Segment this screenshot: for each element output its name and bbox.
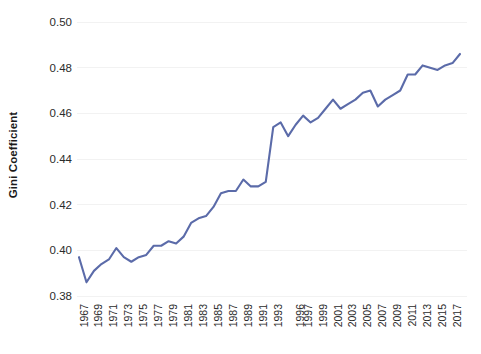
x-axis-tick-label: 2013	[422, 304, 433, 344]
x-axis-tick-label: 1991	[258, 304, 269, 344]
x-axis-tick-label-text: 2011	[407, 304, 418, 344]
y-axis-tick-label: 0.50	[24, 16, 72, 28]
x-axis-tick-label-text: 1973	[123, 304, 134, 344]
x-axis-tick-label-text: 1971	[108, 304, 119, 344]
x-axis-tick-label-text: 1991	[258, 304, 269, 344]
x-axis-tick-label: 1999	[318, 304, 329, 344]
y-axis-tick-labels: 0.380.400.420.440.460.480.50	[24, 0, 72, 354]
x-axis-tick-label-text: 1967	[79, 304, 90, 344]
x-axis-tick-label: 2011	[407, 304, 418, 344]
x-axis-tick-label: 1973	[123, 304, 134, 344]
y-axis-title-label: Gini Coefficient	[7, 112, 19, 199]
x-axis-tick-label: 2015	[437, 304, 448, 344]
x-axis-tick-label-text: 2001	[333, 304, 344, 344]
x-axis-tick-label-text: 2005	[362, 304, 373, 344]
x-axis-tick-label-text: 1997	[303, 304, 314, 344]
x-axis-tick-label: 1967	[79, 304, 90, 344]
series-line-gini-coefficient	[79, 54, 460, 282]
x-axis-tick-label: 1983	[198, 304, 209, 344]
x-axis-tick-label: 1993	[273, 304, 284, 344]
x-axis-tick-label-text: 1999	[318, 304, 329, 344]
y-axis-title: Gini Coefficient	[0, 0, 26, 310]
y-axis-tick-label: 0.48	[24, 62, 72, 74]
x-axis-tick-label: 2001	[333, 304, 344, 344]
x-axis-tick-label-text: 2009	[392, 304, 403, 344]
x-axis-tick-label: 1971	[108, 304, 119, 344]
x-axis-tick-label-text: 2015	[437, 304, 448, 344]
x-axis-tick-label: 2017	[452, 304, 463, 344]
y-axis-tick-label: 0.42	[24, 199, 72, 211]
x-axis-tick-label: 1977	[153, 304, 164, 344]
x-axis-tick-label-text: 1989	[243, 304, 254, 344]
x-axis-tick-label-text: 1979	[168, 304, 179, 344]
x-axis-tick-label: 1969	[93, 304, 104, 344]
x-axis-tick-label: 1975	[138, 304, 149, 344]
x-axis-tick-label-text: 1981	[183, 304, 194, 344]
x-axis-tick-label: 1985	[213, 304, 224, 344]
series-line-layer	[77, 0, 467, 300]
x-axis-tick-label-text: 2013	[422, 304, 433, 344]
x-axis-tick-label: 1981	[183, 304, 194, 344]
x-axis-tick-label: 1997	[303, 304, 314, 344]
y-axis-tick-label: 0.44	[24, 153, 72, 165]
gini-coefficient-line-chart: Gini Coefficient 0.380.400.420.440.460.4…	[0, 0, 481, 354]
x-axis-tick-label: 2009	[392, 304, 403, 344]
x-axis-tick-label: 1989	[243, 304, 254, 344]
y-axis-tick-label: 0.40	[24, 244, 72, 256]
x-axis-tick-label: 1979	[168, 304, 179, 344]
x-axis-tick-label: 2005	[362, 304, 373, 344]
x-axis-tick-label-text: 2003	[347, 304, 358, 344]
x-axis-tick-label-text: 1983	[198, 304, 209, 344]
x-axis-tick-label-text: 1977	[153, 304, 164, 344]
y-axis-tick-label: 0.38	[24, 290, 72, 302]
x-axis-tick-labels: 1967196919711973197519771979198119831985…	[77, 300, 477, 354]
x-axis-tick-label-text: 2007	[377, 304, 388, 344]
x-axis-tick-label-text: 1987	[228, 304, 239, 344]
x-axis-tick-label: 2003	[347, 304, 358, 344]
x-axis-tick-label-text: 2017	[452, 304, 463, 344]
plot-area	[77, 0, 467, 300]
x-axis-tick-label-text: 1975	[138, 304, 149, 344]
y-axis-tick-label: 0.46	[24, 107, 72, 119]
x-axis-tick-label-text: 1985	[213, 304, 224, 344]
x-axis-tick-label-text: 1993	[273, 304, 284, 344]
x-axis-tick-label-text: 1969	[93, 304, 104, 344]
x-axis-tick-label: 2007	[377, 304, 388, 344]
x-axis-tick-label: 1987	[228, 304, 239, 344]
